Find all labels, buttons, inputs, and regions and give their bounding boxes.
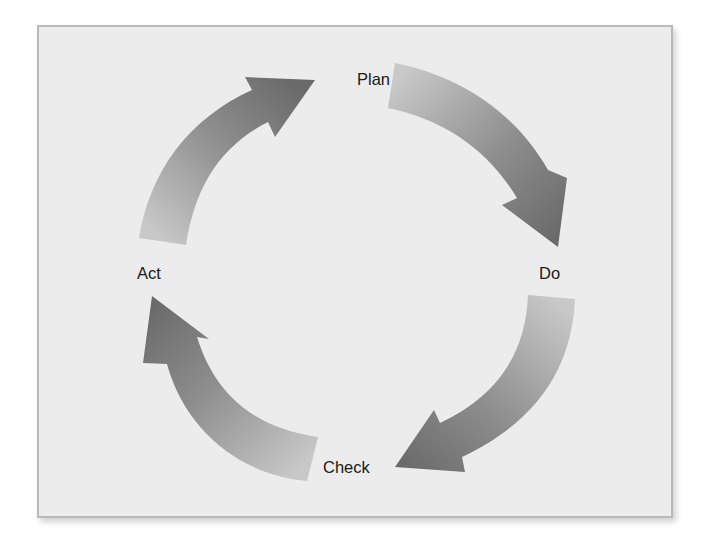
stage-label-do: Do xyxy=(539,265,560,282)
arrow-do-to-check xyxy=(395,295,575,472)
stage-label-act: Act xyxy=(137,265,161,282)
arrow-plan-to-do xyxy=(388,63,567,247)
arrow-check-to-act xyxy=(143,296,318,481)
diagram-canvas: Plan Do Check Act xyxy=(0,0,710,549)
arrow-act-to-plan xyxy=(139,77,315,245)
stage-label-check: Check xyxy=(323,459,370,476)
stage-label-plan: Plan xyxy=(357,71,390,88)
